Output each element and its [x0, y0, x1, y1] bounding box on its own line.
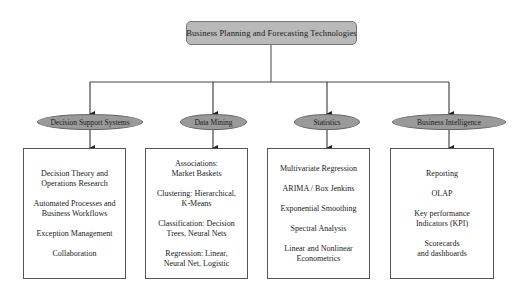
list-item: Multivariate Regression [280, 164, 357, 174]
list-item: Clustering: Hierarchical, K-Means [157, 189, 236, 209]
category-node-decision-support-systems: Decision Support Systems [37, 114, 143, 130]
list-item: OLAP [432, 189, 453, 199]
list-item: Associations: Market Baskets [172, 159, 222, 179]
list-item: Regression: Linear, Neural Net, Logistic [164, 249, 230, 269]
list-item: Collaboration [53, 249, 97, 259]
list-item: Automated Processes and Business Workflo… [33, 199, 115, 219]
category-node-data-mining: Data Mining [180, 114, 247, 130]
detail-box-business-intelligence: Reporting OLAP Key performance Indicator… [390, 148, 494, 279]
list-item: Linear and Nonlinear Econometrics [284, 244, 352, 264]
list-item: Scorecards and dashboards [417, 239, 467, 259]
list-item: Exception Management [36, 229, 112, 239]
list-item: ARIMA / Box Jenkins [283, 184, 355, 194]
category-node-statistics: Statistics [294, 114, 360, 130]
detail-box-decision-support-systems: Decision Theory and Operations Research … [23, 148, 126, 279]
list-item: Key performance Indicators (KPI) [414, 209, 470, 229]
list-item: Decision Theory and Operations Research [41, 169, 108, 189]
list-item: Exponential Smoothing [281, 204, 357, 214]
list-item: Classification: Decision Trees, Neural N… [158, 219, 235, 239]
list-item: Reporting [426, 169, 458, 179]
detail-box-data-mining: Associations: Market Baskets Clustering:… [145, 148, 248, 279]
root-node: Business Planning and Forecasting Techno… [186, 21, 357, 45]
list-item: Spectral Analysis [291, 224, 347, 234]
detail-box-statistics: Multivariate Regression ARIMA / Box Jenk… [267, 148, 370, 279]
category-node-business-intelligence: Business Intelligence [392, 114, 506, 130]
